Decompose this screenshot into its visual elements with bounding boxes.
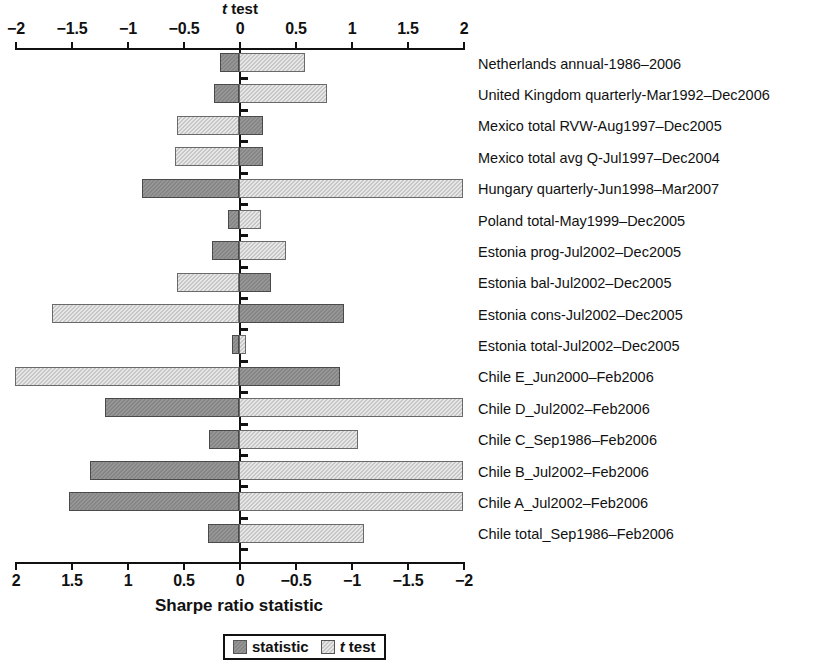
category-label: Chile B_Jul2002–Feb2006 — [478, 463, 649, 481]
category-label: Chile D_Jul2002–Feb2006 — [478, 400, 650, 418]
bar-ttest — [239, 53, 305, 72]
chart-row — [15, 174, 463, 205]
chart-row — [15, 299, 463, 330]
category-label: Chile C_Sep1986–Feb2006 — [478, 431, 657, 449]
chart-row — [15, 111, 463, 142]
bottom-axis-tick — [239, 562, 241, 570]
legend-label-ttest-rest: test — [345, 638, 376, 655]
bottom-axis-tick-label: 1.5 — [61, 572, 83, 590]
row-divider-tick — [241, 109, 248, 112]
bottom-axis-tick-label: 0 — [236, 572, 245, 590]
bottom-axis-tick — [127, 562, 129, 570]
bar-ttest — [239, 335, 246, 354]
bar-statistic — [209, 430, 239, 449]
chart-row — [15, 48, 463, 79]
bottom-axis-tick — [407, 562, 409, 570]
category-label: Hungary quarterly-Jun1998–Mar2007 — [478, 180, 719, 198]
bottom-axis-tick-label: 2 — [12, 572, 21, 590]
row-divider-tick — [241, 234, 248, 237]
bottom-axis-title: Sharpe ratio statistic — [15, 596, 463, 616]
category-label: United Kingdom quarterly-Mar1992–Dec2006 — [478, 86, 770, 104]
top-axis-tick-label: −0.5 — [169, 20, 200, 38]
legend-label-ttest: t test — [340, 638, 376, 655]
bottom-axis-tick-label: −0.5 — [281, 572, 312, 590]
row-divider-tick — [241, 391, 248, 394]
bottom-axis-tick-label: −2 — [455, 572, 473, 590]
category-label: Netherlands annual-1986–2006 — [478, 55, 681, 73]
top-axis-tick-label: −1.5 — [57, 20, 88, 38]
bottom-axis-tick — [183, 562, 185, 570]
category-label: Chile E_Jun2000–Feb2006 — [478, 368, 654, 386]
bar-statistic — [105, 398, 239, 417]
top-axis-tick-label: 0.5 — [285, 20, 307, 38]
top-axis-tick-label: −2 — [7, 20, 25, 38]
category-label: Estonia cons-Jul2002–Dec2005 — [478, 306, 683, 324]
bottom-axis-tick-label: 0.5 — [173, 572, 195, 590]
chart-row — [15, 393, 463, 424]
row-divider-tick — [241, 485, 248, 488]
bar-statistic — [228, 210, 239, 229]
row-divider-tick — [241, 172, 248, 175]
chart-row — [15, 330, 463, 361]
bar-ttest — [239, 179, 463, 198]
bottom-axis-tick-label: 1 — [124, 572, 133, 590]
category-label: Mexico total RVW-Aug1997–Dec2005 — [478, 117, 722, 135]
bottom-axis-tick — [71, 562, 73, 570]
top-axis-tick-label: 0 — [236, 20, 245, 38]
bottom-axis-tick-label: −1.5 — [393, 572, 424, 590]
chart-row — [15, 425, 463, 456]
chart-row — [15, 142, 463, 173]
bar-ttest — [239, 241, 286, 260]
category-label: Estonia bal-Jul2002–Dec2005 — [478, 274, 671, 292]
bottom-axis-tick — [463, 562, 465, 570]
bar-statistic — [239, 367, 340, 386]
top-axis-tick — [463, 42, 465, 50]
legend-item-ttest: t test — [321, 638, 376, 655]
chart-row — [15, 456, 463, 487]
bar-ttest — [239, 430, 358, 449]
category-label: Poland total-May1999–Dec2005 — [478, 212, 685, 230]
legend-item-statistic: statistic — [233, 638, 309, 655]
plot-area — [15, 48, 463, 550]
chart-row — [15, 268, 463, 299]
bottom-axis-tick — [351, 562, 353, 570]
bottom-axis — [15, 562, 463, 570]
bar-statistic — [220, 53, 239, 72]
bottom-axis-tick-labels: 21.510.50−0.5−1−1.5−2 — [15, 572, 463, 594]
row-divider-tick — [241, 297, 248, 300]
bar-statistic — [232, 335, 239, 354]
bar-statistic — [69, 492, 239, 511]
top-axis-tick-label: 1 — [348, 20, 357, 38]
row-divider-tick — [241, 328, 248, 331]
top-axis-tick-label: −1 — [119, 20, 137, 38]
row-divider-tick — [241, 454, 248, 457]
chart-row — [15, 362, 463, 393]
category-label: Estonia prog-Jul2002–Dec2005 — [478, 243, 681, 261]
row-divider-tick — [241, 423, 248, 426]
bar-statistic — [214, 84, 239, 103]
top-axis-tick-label: 1.5 — [397, 20, 419, 38]
chart-row — [15, 519, 463, 550]
row-divider-tick — [241, 517, 248, 520]
bar-ttest — [15, 367, 239, 386]
row-divider-tick — [241, 360, 248, 363]
chart-row — [15, 79, 463, 110]
bar-statistic — [212, 241, 239, 260]
bar-statistic — [239, 304, 344, 323]
bar-ttest — [239, 492, 463, 511]
legend-swatch-statistic — [233, 640, 247, 654]
bar-ttest — [239, 210, 261, 229]
bar-statistic — [239, 116, 263, 135]
category-label: Estonia total-Jul2002–Dec2005 — [478, 337, 680, 355]
chart-row — [15, 487, 463, 518]
row-divider-tick — [241, 140, 248, 143]
bar-ttest — [239, 84, 327, 103]
row-divider-tick — [241, 77, 248, 80]
bar-ttest — [175, 147, 239, 166]
bar-ttest — [177, 273, 239, 292]
category-label-list: Netherlands annual-1986–2006United Kingd… — [478, 48, 835, 550]
bar-statistic — [239, 273, 271, 292]
top-axis-title-rest: test — [227, 0, 258, 17]
category-label: Chile total_Sep1986–Feb2006 — [478, 525, 674, 543]
category-label: Mexico total avg Q-Jul1997–Dec2004 — [478, 149, 720, 167]
